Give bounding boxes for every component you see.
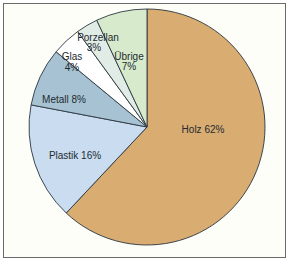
label-uebrige-value: 7%: [122, 61, 137, 72]
label-plastik: Plastik 16%: [49, 150, 101, 161]
label-metall: Metall 8%: [42, 94, 86, 105]
pie-chart: Holz 62% Plastik 16% Metall 8% Glas 4% P…: [0, 0, 294, 267]
label-glas-value: 4%: [65, 62, 80, 73]
label-holz: Holz 62%: [182, 124, 225, 135]
label-glas-name: Glas: [62, 51, 83, 62]
pie-slices: [29, 9, 265, 245]
label-porzellan-value: 3%: [87, 42, 102, 53]
